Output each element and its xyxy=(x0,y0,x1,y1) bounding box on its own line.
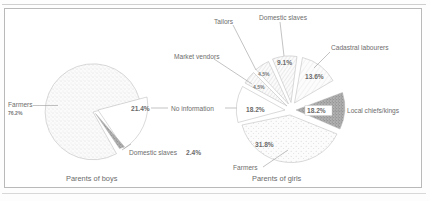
label-farmers-girls: Farmers xyxy=(233,164,258,171)
label-cadastral-labourers: Cadastral labourers xyxy=(331,44,389,51)
leader-cadastral-labourers xyxy=(314,52,330,68)
label-domestic-slaves-girls: Domestic slaves xyxy=(259,14,308,21)
pct-local-chiefs-kings: 18.2% xyxy=(307,107,326,114)
label-no-information-boys: No information xyxy=(171,105,214,112)
pie-parents-of-boys xyxy=(45,64,148,160)
pct-no-information-girls: 18.2% xyxy=(246,106,265,113)
label-farmers-boys: Farmers xyxy=(8,101,33,108)
pct-tailors: 4.5% xyxy=(258,71,270,77)
caption-parents-of-girls: Parents of girls xyxy=(252,174,302,183)
pct-no-information-boys: 21.4% xyxy=(131,105,150,112)
slice-cadastral-labourers-girls[interactable] xyxy=(295,58,334,104)
pct-market-vendors: 4.5% xyxy=(253,84,265,90)
pct-cadastral-labourers: 13.6% xyxy=(305,73,324,80)
pct-domestic-slaves-girls: 9.1% xyxy=(277,59,292,66)
pct-farmers-girls: 31.8% xyxy=(255,141,274,148)
leader-domestic-slaves-girls xyxy=(280,22,284,56)
label-domestic-slaves-boys: Domestic slaves xyxy=(129,149,178,156)
figure-container: Farmers 76.2% 21.4% No information Domes… xyxy=(0,0,430,201)
label-market-vendors: Market vendors xyxy=(174,53,220,60)
leader-tailors xyxy=(233,25,256,70)
label-tailors: Tailors xyxy=(214,18,234,25)
leader-market-vendors xyxy=(214,59,252,84)
pct-farmers-boys: 76.2% xyxy=(8,110,23,116)
pie-chart-figure: Farmers 76.2% 21.4% No information Domes… xyxy=(0,0,430,201)
pct-domestic-slaves-boys: 2.4% xyxy=(186,149,201,156)
slice-farmers-girls[interactable] xyxy=(242,115,337,163)
label-local-chiefs-kings: Local chiefs/kings xyxy=(347,107,400,115)
caption-parents-of-boys: Parents of boys xyxy=(66,174,118,183)
